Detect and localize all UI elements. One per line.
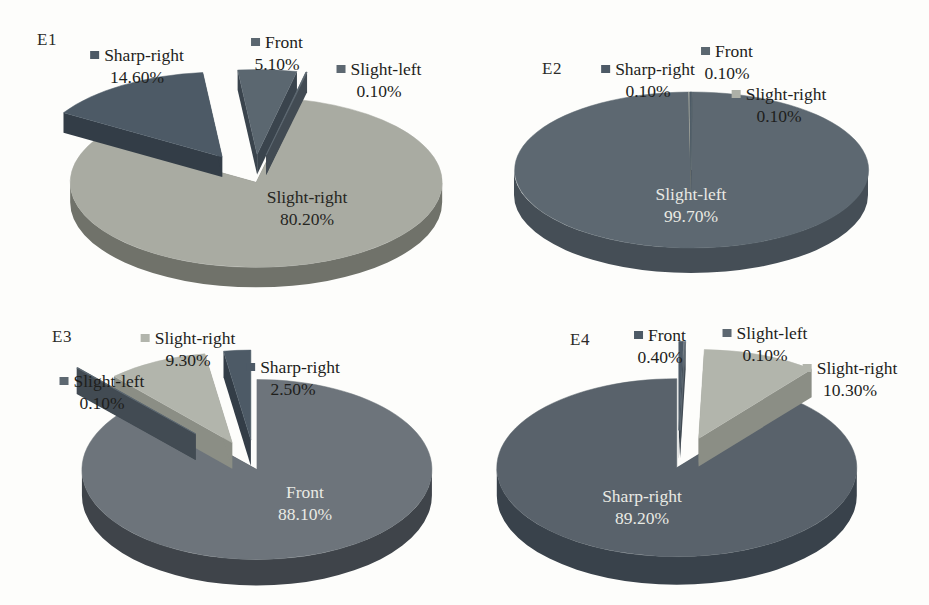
chart-e3: E3 Front88.10%Slight-left0.10%Slight-rig… bbox=[0, 302, 465, 605]
slice-label-slight-left: Slight-left0.10% bbox=[723, 322, 808, 366]
pie-e2-svg bbox=[465, 0, 929, 302]
legend-marker-slight-left bbox=[723, 329, 732, 337]
chart-title-e1: E1 bbox=[37, 30, 57, 50]
legend-marker-sharp-right bbox=[246, 363, 255, 371]
chart-e1: E1 Front5.10%Slight-left0.10%Slight-righ… bbox=[0, 0, 465, 302]
slice-label-front: Front5.10% bbox=[251, 31, 303, 75]
slice-label-name: Front bbox=[286, 482, 324, 502]
slice-label-percent: 0.40% bbox=[634, 346, 686, 368]
slice-label-name: Slight-left bbox=[74, 371, 145, 391]
slice-label-sharp-right: Sharp-right2.50% bbox=[246, 356, 340, 400]
chart-e2: E2 Front0.10%Slight-left99.70%Slight-rig… bbox=[465, 0, 929, 302]
slice-label-name: Slight-right bbox=[267, 187, 348, 207]
slice-label-name: Sharp-right bbox=[602, 486, 682, 506]
slice-label-front: Front88.10% bbox=[278, 481, 332, 525]
slice-label-name: Front bbox=[265, 32, 303, 52]
slice-label-sharp-right: Sharp-right0.10% bbox=[601, 58, 695, 102]
legend-marker-sharp-right bbox=[601, 65, 610, 73]
legend-marker-slight-right bbox=[803, 364, 812, 372]
pie-slice-sharp-right bbox=[497, 379, 857, 585]
slice-label-percent: 0.10% bbox=[723, 344, 808, 366]
chart-title-e3: E3 bbox=[52, 327, 72, 347]
slice-label-slight-left: Slight-left99.70% bbox=[656, 183, 727, 227]
slice-label-front: Front0.10% bbox=[701, 40, 753, 84]
slice-label-percent: 89.20% bbox=[602, 507, 682, 529]
slice-label-name: Front bbox=[715, 41, 753, 61]
slice-label-slight-left: Slight-left0.10% bbox=[337, 58, 422, 102]
legend-marker-sharp-right bbox=[90, 51, 99, 59]
slice-label-percent: 2.50% bbox=[246, 378, 340, 400]
slice-label-name: Sharp-right bbox=[615, 59, 695, 79]
slice-label-name: Slight-right bbox=[817, 358, 898, 378]
slice-label-name: Slight-left bbox=[737, 323, 808, 343]
legend-marker-slight-right bbox=[141, 334, 150, 342]
legend-marker-slight-left bbox=[337, 65, 346, 73]
slice-label-name: Sharp-right bbox=[260, 357, 340, 377]
slice-label-sharp-right: Sharp-right14.60% bbox=[90, 44, 184, 88]
chart-title-e4: E4 bbox=[570, 330, 590, 350]
slice-label-percent: 5.10% bbox=[251, 53, 303, 75]
slice-label-sharp-right: Sharp-right89.20% bbox=[602, 485, 682, 529]
slice-label-percent: 9.30% bbox=[141, 349, 236, 371]
pie-e1-svg bbox=[0, 0, 465, 302]
slice-label-slight-right: Slight-right0.10% bbox=[732, 83, 827, 127]
slice-label-percent: 0.10% bbox=[601, 80, 695, 102]
slice-label-name: Slight-left bbox=[351, 59, 422, 79]
pie-e4-svg bbox=[465, 302, 929, 605]
slice-label-percent: 0.10% bbox=[732, 105, 827, 127]
slice-label-name: Sharp-right bbox=[104, 45, 184, 65]
chart-e4: E4 Front0.40%Slight-left0.10%Slight-righ… bbox=[465, 302, 929, 605]
slice-label-percent: 99.70% bbox=[656, 205, 727, 227]
slice-label-name: Slight-right bbox=[155, 328, 236, 348]
chart-title-e2: E2 bbox=[542, 59, 562, 79]
slice-label-slight-right: Slight-right80.20% bbox=[267, 186, 348, 230]
slice-label-percent: 14.60% bbox=[90, 66, 184, 88]
slice-label-name: Slight-right bbox=[746, 84, 827, 104]
slice-label-percent: 10.30% bbox=[803, 379, 898, 401]
slice-label-front: Front0.40% bbox=[634, 324, 686, 368]
slice-label-name: Slight-left bbox=[656, 184, 727, 204]
pie-slice-top bbox=[497, 379, 857, 557]
slice-label-slight-right: Slight-right9.30% bbox=[141, 327, 236, 371]
legend-marker-front bbox=[634, 331, 643, 339]
legend-marker-slight-right bbox=[732, 90, 741, 98]
slice-label-name: Front bbox=[648, 325, 686, 345]
slice-label-percent: 88.10% bbox=[278, 503, 332, 525]
slice-label-slight-left: Slight-left0.10% bbox=[60, 370, 145, 414]
slice-label-percent: 0.10% bbox=[60, 392, 145, 414]
legend-marker-front bbox=[701, 47, 710, 55]
legend-marker-front bbox=[251, 38, 260, 46]
slice-label-percent: 0.10% bbox=[701, 62, 753, 84]
slice-label-slight-right: Slight-right10.30% bbox=[803, 357, 898, 401]
slice-label-percent: 80.20% bbox=[267, 208, 348, 230]
slice-label-percent: 0.10% bbox=[337, 80, 422, 102]
legend-marker-slight-left bbox=[60, 377, 69, 385]
